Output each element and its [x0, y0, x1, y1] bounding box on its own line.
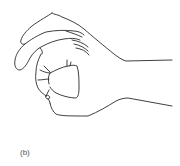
fist-segment-4 — [44, 66, 50, 72]
hand-illustration — [0, 0, 180, 166]
hand-lower-outline — [50, 98, 172, 116]
palm-edge — [48, 99, 50, 103]
fist-segment-2 — [38, 79, 49, 80]
hand-upper-outline — [52, 13, 172, 61]
knuckle-crease-4 — [76, 48, 89, 55]
thumb-block-outline — [50, 65, 79, 98]
index-finger-outline — [21, 13, 84, 44]
fist-segment-1 — [48, 73, 50, 84]
finger-joint-mark — [40, 48, 42, 54]
hand-drawing-icon — [0, 0, 180, 166]
curled-fingers-outline — [36, 54, 46, 96]
panel-label: (b) — [20, 148, 30, 157]
